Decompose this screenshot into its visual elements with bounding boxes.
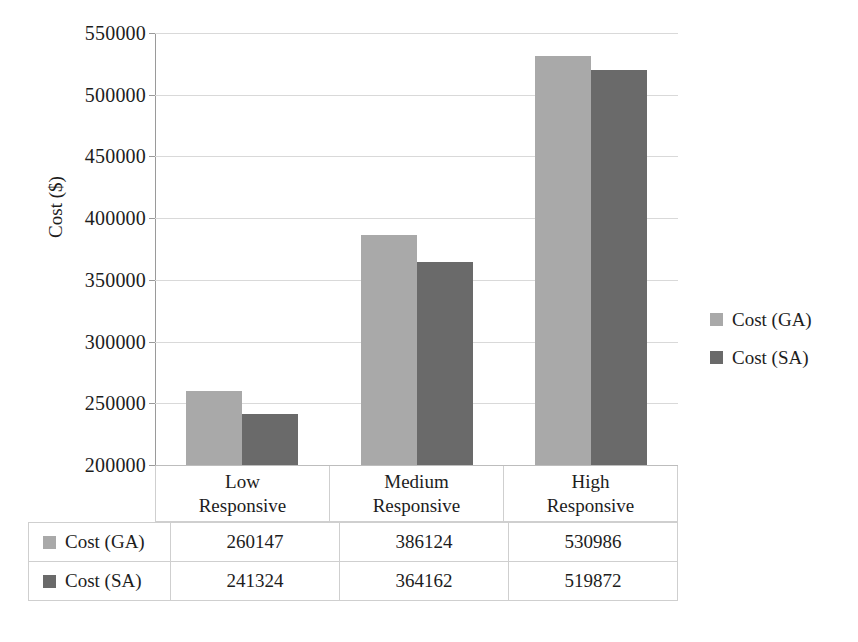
bar: [535, 56, 591, 465]
table-series-label: Cost (SA): [65, 570, 142, 592]
y-axis-tick-label: 450000: [6, 146, 146, 166]
category-label-line: Low: [225, 470, 260, 494]
table-value-cell: 386124: [340, 523, 509, 562]
x-axis-category-label: MediumResponsive: [330, 466, 504, 521]
table-row: Cost (GA)260147386124530986: [29, 523, 678, 562]
bar: [417, 262, 473, 465]
table-value-cell: 241324: [171, 562, 340, 601]
table-series-cell: Cost (SA): [29, 562, 171, 601]
legend-swatch-icon: [710, 351, 723, 364]
bar: [242, 414, 298, 465]
legend-item: Cost (GA): [710, 300, 850, 338]
legend-item: Cost (SA): [710, 338, 850, 376]
legend-label: Cost (GA): [732, 310, 812, 329]
plot-area: [155, 33, 678, 465]
category-label-line: Responsive: [373, 494, 461, 518]
table-series-label: Cost (GA): [65, 531, 145, 553]
bar: [591, 70, 647, 465]
y-axis-tick-label: 200000: [6, 455, 146, 475]
gridline: [155, 33, 678, 34]
y-axis-title: Cost ($): [45, 147, 67, 267]
y-axis-tick-label: 400000: [6, 208, 146, 228]
x-axis-category-label: LowResponsive: [156, 466, 330, 521]
table-series-cell: Cost (GA): [29, 523, 171, 562]
legend-label: Cost (SA): [732, 348, 809, 367]
table-swatch-icon: [43, 536, 56, 549]
category-label-line: Responsive: [547, 494, 635, 518]
data-table: Cost (GA)260147386124530986Cost (SA)2413…: [28, 522, 678, 601]
y-axis-tick-label: 350000: [6, 270, 146, 290]
x-axis-category-label: HighResponsive: [504, 466, 677, 521]
bar: [361, 235, 417, 465]
category-label-line: High: [572, 470, 610, 494]
y-axis-tick-label: 250000: [6, 393, 146, 413]
table-value-cell: 530986: [509, 523, 678, 562]
y-axis-tick-label: 550000: [6, 23, 146, 43]
category-label-line: Responsive: [199, 494, 287, 518]
table-swatch-icon: [43, 575, 56, 588]
y-axis-tick-label: 500000: [6, 85, 146, 105]
table-value-cell: 260147: [171, 523, 340, 562]
y-axis-tick-label: 300000: [6, 332, 146, 352]
x-axis-category-band: LowResponsiveMediumResponsiveHighRespons…: [155, 466, 678, 522]
legend-swatch-icon: [710, 313, 723, 326]
table-row: Cost (SA)241324364162519872: [29, 562, 678, 601]
bar-chart: 5500005000004500004000003500003000002500…: [0, 0, 858, 642]
table-value-cell: 519872: [509, 562, 678, 601]
table-value-cell: 364162: [340, 562, 509, 601]
bar: [186, 391, 242, 465]
legend: Cost (GA)Cost (SA): [710, 300, 850, 376]
category-label-line: Medium: [384, 470, 448, 494]
